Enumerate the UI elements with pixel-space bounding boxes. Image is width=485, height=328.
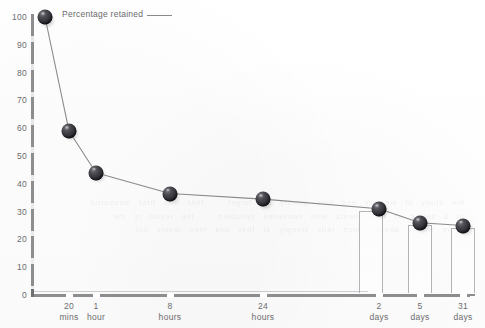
marker-highlight bbox=[375, 204, 380, 208]
marker-highlight bbox=[41, 12, 46, 16]
forgetting-curve-chart: the study of memory and how quickly we f… bbox=[0, 0, 485, 328]
data-point-1-hour bbox=[89, 165, 104, 180]
retention-curve-line bbox=[45, 17, 463, 226]
marker-highlight bbox=[92, 167, 97, 171]
marker-highlight bbox=[416, 217, 421, 221]
data-point-8-hours bbox=[163, 186, 178, 201]
data-point-20-mins bbox=[62, 123, 77, 138]
marker-highlight bbox=[166, 188, 171, 192]
data-point-start bbox=[38, 10, 53, 25]
curve-svg bbox=[0, 0, 485, 328]
data-point-2-days bbox=[372, 201, 387, 216]
data-point-31-days bbox=[456, 218, 471, 233]
data-point-5-days bbox=[413, 215, 428, 230]
marker-highlight bbox=[459, 220, 464, 224]
marker-highlight bbox=[65, 126, 70, 130]
data-point-24-hours bbox=[256, 192, 271, 207]
marker-highlight bbox=[259, 194, 264, 198]
